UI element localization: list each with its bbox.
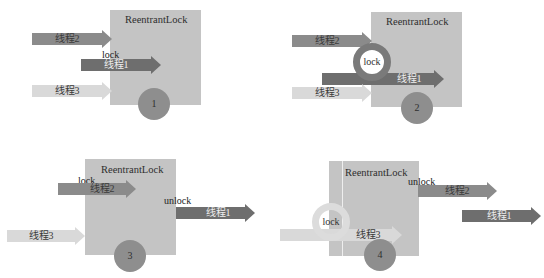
- panel-step-4: ReentrantLock unlock 线程2 线程1 线程3 lock 4: [0, 0, 544, 278]
- thread-1-arrow: 线程1: [462, 210, 541, 222]
- thread-2-arrow: 线程2: [418, 185, 497, 197]
- thread-label: 线程1: [472, 210, 526, 222]
- lock-ring: lock: [312, 203, 350, 241]
- lock-label: lock: [319, 216, 343, 228]
- box-title: ReentrantLock: [345, 167, 407, 178]
- thread-label: 线程2: [432, 185, 482, 197]
- step-badge: 4: [364, 239, 396, 271]
